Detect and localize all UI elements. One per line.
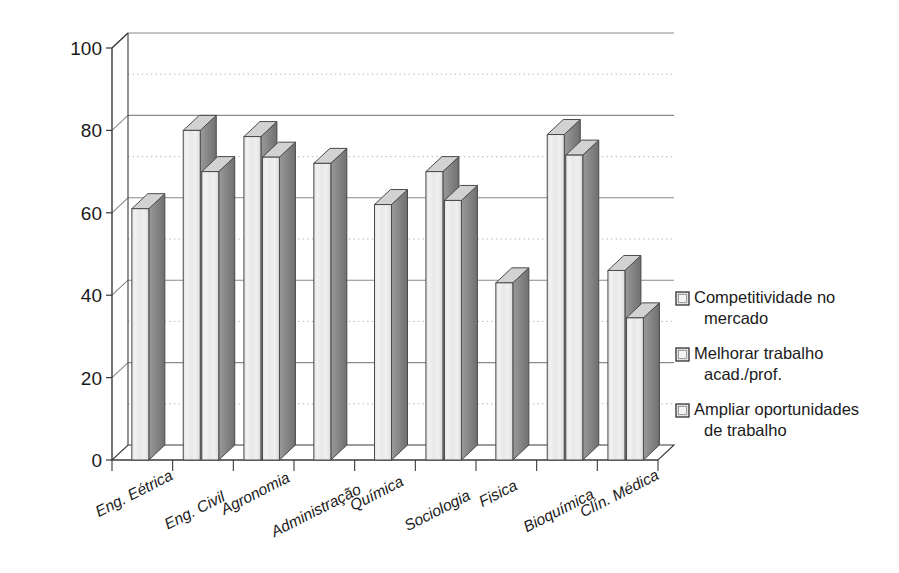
bar-chart: 100806040200 Eng. EétricaEng. CivilAgron… — [0, 0, 899, 573]
legend-label-line1: Competitividade no — [694, 288, 835, 306]
bar-0-0 — [132, 194, 165, 460]
bar-7-2 — [566, 140, 599, 460]
bar-3-1 — [314, 148, 347, 460]
y-axis-tick-label: 80 — [81, 120, 102, 141]
y-axis-tick-label: 0 — [91, 450, 102, 471]
bar-8-2 — [626, 303, 659, 460]
bar-6-1 — [496, 268, 529, 460]
bar-1-2 — [202, 157, 235, 460]
y-axis-tick-label: 40 — [81, 285, 102, 306]
legend-label-line1: Melhorar trabalho — [694, 344, 823, 362]
bar-2-2 — [262, 142, 295, 460]
legend-label-line1: Ampliar oportunidades — [694, 400, 859, 418]
y-axis-tick-label: 20 — [81, 368, 102, 389]
chart-canvas: 100806040200 Eng. EétricaEng. CivilAgron… — [0, 0, 899, 573]
legend-label-line2: de trabalho — [704, 421, 787, 439]
bar-4-1 — [375, 190, 408, 460]
y-axis-tick-label: 100 — [70, 38, 102, 59]
legend-label-line2: acad./prof. — [704, 365, 782, 383]
legend-label-line2: mercado — [704, 309, 768, 327]
y-axis-tick-label: 60 — [81, 203, 102, 224]
bar-5-2 — [444, 185, 477, 460]
